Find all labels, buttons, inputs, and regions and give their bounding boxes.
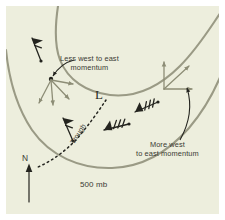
inner-contour	[56, 6, 221, 95]
annotation-less-momentum-line2: momentum	[60, 63, 119, 72]
chart-graphics	[0, 0, 225, 220]
annotation-more-momentum: More west to east momentum	[136, 140, 199, 158]
annotation-more-momentum-line2: to east momentum	[136, 149, 199, 158]
figure-root: Less west to east momentum More west to …	[0, 0, 225, 220]
annotation-more-momentum-line1: More west	[136, 140, 199, 149]
triad-left	[39, 77, 73, 105]
north-label: N	[22, 154, 28, 163]
barb-east-jet	[135, 99, 160, 112]
pressure-level-label: 500 mb	[80, 180, 107, 189]
annotation-less-momentum: Less west to east momentum	[60, 54, 119, 72]
low-center-label: L	[95, 90, 103, 99]
north-arrow	[26, 164, 33, 203]
vector-down-left	[39, 80, 51, 103]
barb-northwest-upper	[32, 38, 43, 63]
barb-south-center	[104, 119, 131, 130]
vector-down	[51, 80, 53, 105]
annotation-less-momentum-line1: Less west to east	[60, 54, 119, 63]
